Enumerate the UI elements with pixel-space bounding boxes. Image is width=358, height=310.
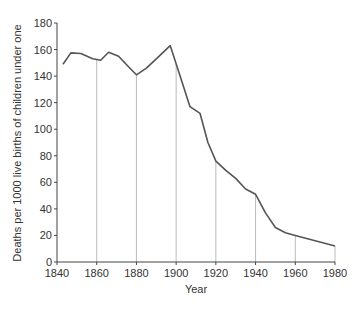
y-tick-label: 160 [34,44,52,56]
x-tick-label: 1880 [124,267,148,279]
y-tick-label: 140 [34,70,52,82]
y-axis-label: Deaths per 1000 live births of children … [11,24,23,261]
x-tick-label: 1860 [84,267,108,279]
y-tick-label: 60 [40,176,52,188]
infant-mortality-chart: 020406080100120140160180 184018601880190… [0,0,358,310]
data-line [63,46,335,247]
y-tick-label: 120 [34,97,52,109]
x-axis-label: Year [185,283,208,295]
y-tick-label: 20 [40,229,52,241]
y-tick-label: 40 [40,203,52,215]
chart-canvas: 020406080100120140160180 184018601880190… [0,0,358,310]
x-tick-label: 1940 [243,267,267,279]
x-tick-label: 1960 [283,267,307,279]
y-tick-label: 100 [34,123,52,135]
axes [57,23,335,262]
x-tick-label: 1900 [164,267,188,279]
y-axis-ticks: 020406080100120140160180 [34,17,57,268]
y-tick-label: 80 [40,150,52,162]
x-axis-ticks: 18401860188019001920194019601980 [45,262,347,279]
x-tick-label: 1920 [204,267,228,279]
x-tick-label: 1840 [45,267,69,279]
y-tick-label: 180 [34,17,52,29]
x-tick-label: 1980 [323,267,347,279]
